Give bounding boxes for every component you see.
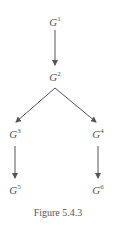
edge-g2-g4	[55, 88, 96, 122]
node-g1: G1	[49, 16, 60, 28]
edge-g2-g3	[16, 88, 55, 122]
node-g2: G2	[49, 71, 60, 83]
node-g5: G5	[9, 184, 20, 196]
figure-caption: Figure 5.4.3	[0, 207, 116, 218]
node-g4: G4	[92, 128, 103, 140]
node-g6: G6	[92, 184, 103, 196]
node-g3: G3	[9, 128, 20, 140]
